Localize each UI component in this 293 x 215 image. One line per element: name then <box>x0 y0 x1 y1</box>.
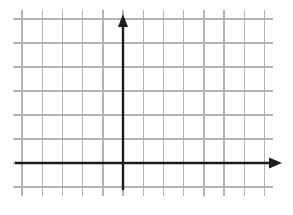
coordinate-plane-svg <box>0 0 293 215</box>
coordinate-grid-figure <box>0 0 293 215</box>
figure-background <box>0 0 293 215</box>
